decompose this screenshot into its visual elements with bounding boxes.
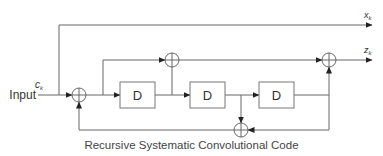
- input-label: Input: [9, 88, 36, 102]
- input-symbol: ck: [35, 79, 44, 91]
- output-z-label: zk: [363, 45, 373, 56]
- delay-label-3: D: [272, 88, 281, 103]
- output-x-label: xk: [363, 10, 373, 21]
- delay-label-1: D: [133, 88, 142, 103]
- adder-1: [72, 88, 86, 102]
- diagram-caption: Recursive Systematic Convolutional Code: [0, 139, 383, 151]
- rsc-encoder-diagram: D D D Input ck xk zk: [0, 0, 383, 156]
- delay-label-2: D: [203, 88, 212, 103]
- adder-3: [234, 123, 248, 137]
- adder-4: [322, 53, 336, 67]
- adder-2: [165, 53, 179, 67]
